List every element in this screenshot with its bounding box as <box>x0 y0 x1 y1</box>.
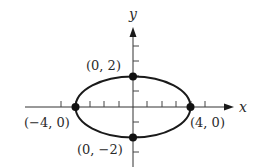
point-0-2 <box>129 73 137 81</box>
label-4-0: (4, 0) <box>190 115 225 130</box>
x-axis-label: x <box>239 99 247 115</box>
label-0-neg2: (0, −2) <box>77 142 123 157</box>
y-axis-arrow-icon <box>130 27 137 37</box>
label-0-2: (0, 2) <box>86 58 121 73</box>
point-0-neg2 <box>129 134 137 142</box>
x-axis-arrow-icon <box>224 104 234 111</box>
coordinate-plane: y x (0, 2) (−4, 0) (4, 0) (0, −2) <box>0 0 255 167</box>
point-neg4-0 <box>72 103 80 111</box>
label-neg4-0: (−4, 0) <box>24 115 70 130</box>
y-axis-label: y <box>128 6 138 22</box>
point-4-0 <box>187 103 195 111</box>
